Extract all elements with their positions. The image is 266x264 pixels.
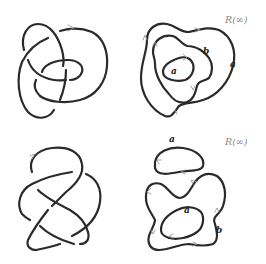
region-label-b: b <box>216 225 222 235</box>
knot-top-svg <box>0 0 133 132</box>
region-label-b: b <box>203 46 209 56</box>
knot-diagram-bottom <box>0 132 133 264</box>
region-label-a-inner: a <box>171 66 177 76</box>
orientation-arrow-icon <box>151 230 155 234</box>
state-diagram-bottom: R(∞) a a b <box>133 132 266 264</box>
region-label-a-top: a <box>169 134 175 144</box>
knot-diagram-top <box>0 0 133 132</box>
graph-bottom-svg <box>133 132 266 264</box>
panel-title: R(∞) <box>225 136 247 147</box>
state-diagram-top: R(∞) b a a <box>133 0 266 132</box>
orientation-arrow-icon <box>215 208 219 212</box>
region-label-a-inner: a <box>184 205 190 215</box>
orientation-arrow-icon <box>191 86 195 90</box>
knot-bottom-svg <box>0 132 133 264</box>
orientation-arrow-icon <box>157 160 161 164</box>
region-label-a-outer: a <box>230 59 236 69</box>
panel-title: R(∞) <box>225 14 247 25</box>
